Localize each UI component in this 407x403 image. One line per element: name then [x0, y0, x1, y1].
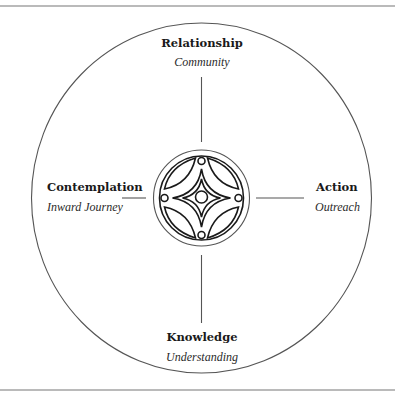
node-bottom: Knowledge Understanding [166, 330, 238, 364]
node-subtitle: Inward Journey [46, 200, 124, 214]
node-subtitle: Outreach [315, 200, 360, 214]
node-title: Action [315, 180, 358, 194]
node-right: Action Outreach [315, 180, 360, 214]
node-subtitle: Understanding [166, 350, 238, 364]
node-left: Contemplation Inward Journey [46, 180, 143, 214]
celtic-knot-emblem-icon [154, 150, 250, 246]
dot-left [161, 195, 168, 202]
node-title: Contemplation [47, 180, 143, 194]
emblem-inner-ring [160, 156, 244, 240]
outer-star [173, 169, 231, 227]
node-title: Knowledge [166, 330, 237, 344]
dot-bottom [198, 232, 205, 239]
center-circle [196, 191, 208, 203]
dot-top [198, 158, 205, 165]
node-top: Relationship Community [161, 36, 243, 69]
diagram-canvas: Relationship Community Contemplation Inw… [0, 0, 407, 403]
inner-star [183, 179, 221, 217]
node-subtitle: Community [174, 55, 230, 69]
dot-right [235, 195, 242, 202]
node-title: Relationship [161, 36, 243, 50]
